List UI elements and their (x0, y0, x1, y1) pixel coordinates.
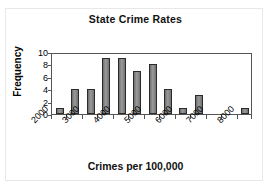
bar (87, 89, 95, 114)
plot-area (51, 53, 252, 115)
bar (118, 58, 126, 114)
x-axis-tick-labels: 2000300040005000600070008000 (51, 118, 261, 148)
bar-series (52, 54, 251, 114)
y-axis-title: Frequency (12, 37, 23, 107)
chart-figure: State Crime Rates Frequency 1086420 2000… (0, 0, 271, 187)
bar (56, 108, 64, 114)
bar (179, 108, 187, 114)
bar (241, 108, 249, 114)
chart-title: State Crime Rates (0, 13, 271, 25)
bar (149, 64, 157, 114)
x-axis-title: Crimes per 100,000 (0, 160, 271, 172)
